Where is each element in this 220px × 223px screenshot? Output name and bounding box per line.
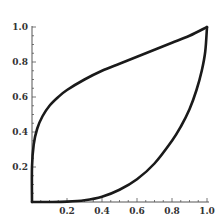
x-tick-label: 1.0 <box>199 206 215 216</box>
y-tick-label: 0.6 <box>12 92 28 102</box>
y-tick-label: 1.0 <box>12 22 28 32</box>
upper-curve <box>32 27 207 202</box>
y-tick-label: 0.4 <box>12 127 28 137</box>
x-tick-label: 0.2 <box>59 206 75 216</box>
y-tick-label: 0.8 <box>12 57 28 67</box>
lower-curve <box>32 27 207 202</box>
y-tick-label: 0.2 <box>12 162 28 172</box>
chart-canvas: 0.20.40.60.81.00.20.40.60.81.0 <box>0 0 220 223</box>
x-tick-label: 0.4 <box>94 206 110 216</box>
x-tick-label: 0.8 <box>164 206 180 216</box>
curves <box>32 27 207 202</box>
x-tick-label: 0.6 <box>129 206 145 216</box>
axes <box>32 26 209 202</box>
ticks <box>32 27 207 202</box>
